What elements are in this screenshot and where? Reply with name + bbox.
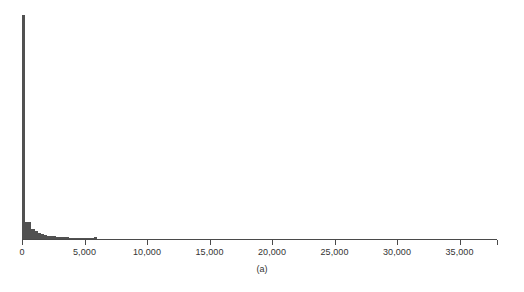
histogram-figure: 05,00010,00015,00020,00025,00030,00035,0… [0, 0, 524, 292]
histogram-bar [22, 15, 25, 240]
x-axis-tick [460, 240, 461, 245]
x-axis-tick-label: 10,000 [133, 246, 161, 258]
x-axis-tick [272, 240, 273, 245]
x-axis-tick [335, 240, 336, 245]
x-axis-tick-label: 5,000 [73, 246, 96, 258]
figure-caption: (a) [0, 263, 524, 275]
x-axis-tick-label: 15,000 [195, 246, 223, 258]
histogram-bars [0, 0, 524, 240]
x-axis-tick [147, 240, 148, 245]
x-axis-tick [85, 240, 86, 245]
x-axis-line [22, 239, 497, 240]
x-axis-tick-label: 35,000 [445, 246, 473, 258]
x-axis-tick [397, 240, 398, 245]
x-axis-tick-label: 25,000 [320, 246, 348, 258]
x-axis-tick-label: 20,000 [258, 246, 286, 258]
x-axis-end-tick [497, 240, 498, 245]
x-axis-tick [210, 240, 211, 245]
plot-area [0, 0, 524, 240]
x-axis-tick-label: 0 [19, 246, 24, 258]
x-axis-tick-label: 30,000 [383, 246, 411, 258]
x-axis-tick [22, 240, 23, 245]
